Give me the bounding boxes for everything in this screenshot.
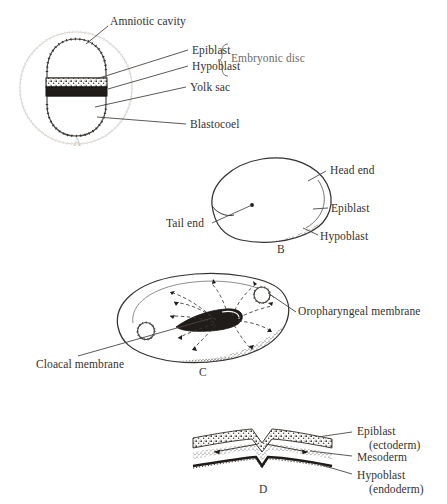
- label-hypoblast-d-main: Hypoblast: [357, 469, 405, 481]
- label-hypoblast-b: Hypoblast: [320, 230, 368, 244]
- hypoblast-layer: [46, 87, 107, 96]
- hypoblast-rim-shading: [200, 208, 340, 256]
- epiblast-ectoderm-sheet: [193, 429, 332, 452]
- label-oropharyngeal-membrane: Oropharyngeal membrane: [298, 305, 421, 319]
- label-epiblast-d-main: Epiblast: [357, 425, 396, 437]
- label-hypoblast-d-sub: (endoderm): [357, 483, 424, 497]
- label-embryonic-disc: Embryonic disc: [231, 52, 305, 66]
- panel-letter-c: C: [199, 366, 207, 378]
- embryology-figure: Amniotic cavity Epiblast Hypoblast Yolk …: [0, 0, 447, 504]
- label-blastocoel: Blastocoel: [190, 118, 240, 132]
- leader-hypoblast-d: [318, 464, 352, 474]
- epiblast-layer: [46, 78, 107, 87]
- leader-amniotic-cavity: [86, 26, 108, 44]
- leader-head-end: [308, 171, 326, 181]
- label-hypoblast-d: Hypoblast (endoderm): [357, 469, 424, 496]
- embryonic-disc-outline-b: [212, 158, 331, 242]
- label-cloacal-membrane: Cloacal membrane: [36, 358, 124, 372]
- label-epiblast-a: Epiblast: [192, 44, 231, 58]
- panel-letter-a: A: [73, 136, 81, 148]
- leader-blastocoel: [97, 117, 186, 124]
- leader-hypoblast: [108, 66, 188, 89]
- label-yolk-sac: Yolk sac: [190, 81, 230, 95]
- panel-letter-b: B: [277, 243, 285, 255]
- panel-d-artwork: [193, 429, 352, 474]
- epiblast-surface-edge: [306, 180, 324, 228]
- leader-yolk-sac: [95, 87, 186, 107]
- leader-tail-end: [212, 205, 252, 223]
- amniotic-cavity-wall: [47, 39, 106, 78]
- label-epiblast-d: Epiblast (ectoderm): [357, 425, 420, 452]
- leader-epiblast-d: [318, 432, 352, 437]
- leader-epiblast-b: [313, 208, 328, 209]
- label-epiblast-b: Epiblast: [331, 202, 370, 216]
- leader-epiblast: [96, 50, 188, 79]
- yolk-sac-wall: [47, 96, 106, 136]
- label-head-end: Head end: [330, 164, 375, 178]
- label-tail-end: Tail end: [166, 217, 204, 231]
- panel-letter-d: D: [259, 483, 267, 495]
- label-amniotic-cavity: Amniotic cavity: [110, 15, 186, 29]
- tail-end-notch: [212, 206, 234, 216]
- label-mesoderm-d: Mesoderm: [357, 451, 407, 465]
